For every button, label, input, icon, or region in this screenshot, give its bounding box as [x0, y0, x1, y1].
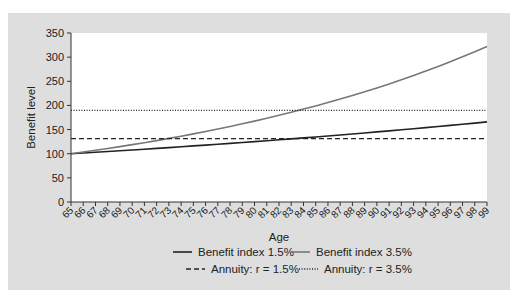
line-chart: 0501001502002503003506566676869707172737… [0, 0, 518, 301]
legend-label: Benefit index 1.5% [198, 246, 294, 258]
y-tick-label: 100 [46, 148, 64, 160]
plot-area [71, 33, 487, 202]
y-tick-label: 150 [46, 124, 64, 136]
x-axis-title: Age [269, 231, 289, 243]
legend-label: Annuity: r = 1.5% [211, 263, 299, 275]
y-tick-label: 50 [52, 172, 64, 184]
legend: Benefit index 1.5%Benefit index 3.5%Annu… [173, 246, 412, 275]
y-tick-label: 200 [46, 99, 64, 111]
legend-label: Annuity: r = 3.5% [324, 263, 412, 275]
y-tick-label: 0 [58, 196, 64, 208]
y-tick-label: 350 [46, 27, 64, 39]
y-tick-label: 300 [46, 51, 64, 63]
y-axis-title: Benefit level [25, 86, 37, 149]
y-tick-label: 250 [46, 75, 64, 87]
x-tick-label: 99 [476, 204, 492, 220]
legend-label: Benefit index 3.5% [316, 246, 412, 258]
